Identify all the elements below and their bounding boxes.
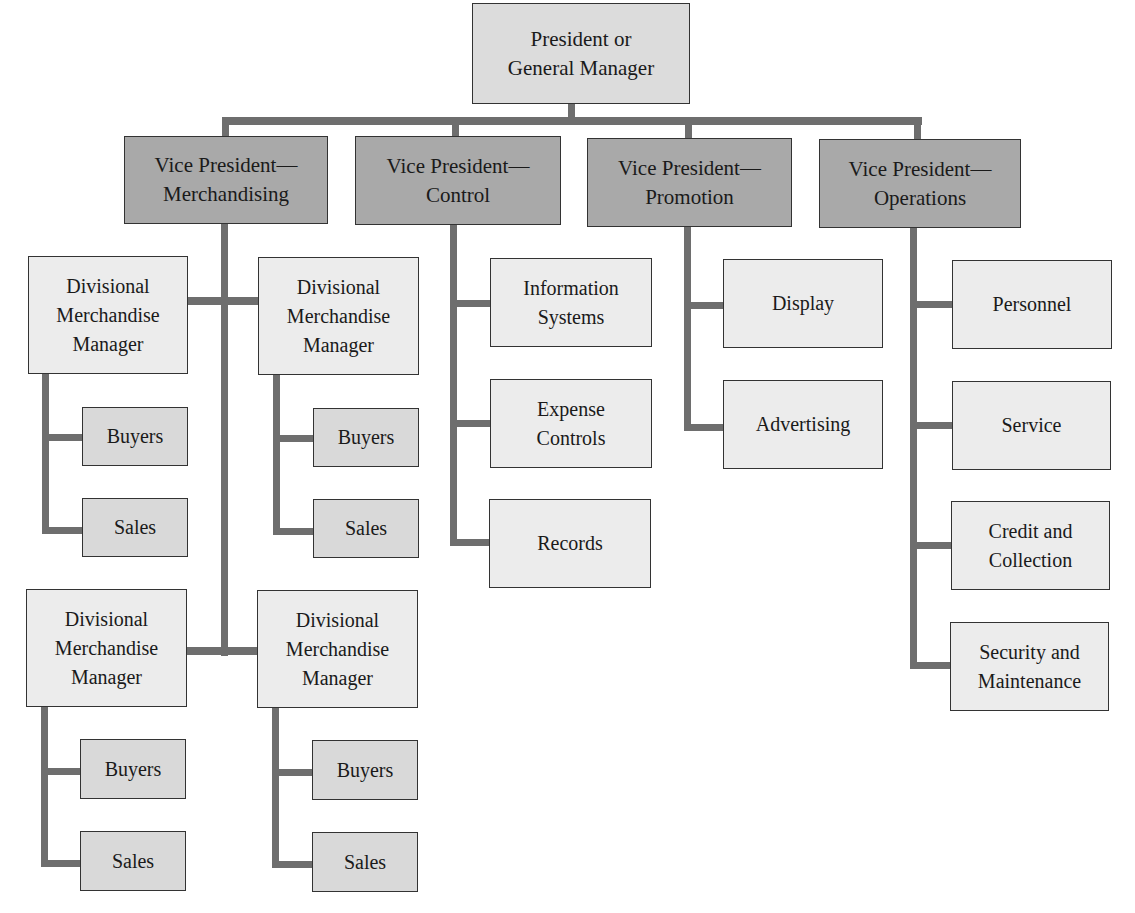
node-advertising: Advertising xyxy=(723,380,883,469)
node-label: Buyers xyxy=(338,423,395,452)
node-label: President or General Manager xyxy=(508,25,654,83)
node-label: Divisional Merchandise Manager xyxy=(286,606,389,693)
connector-dmm1-sales xyxy=(42,527,82,534)
node-records: Records xyxy=(489,499,651,588)
node-label: Records xyxy=(537,529,603,558)
node-label: Advertising xyxy=(756,410,850,439)
connector-dmm2-sales xyxy=(273,528,313,535)
node-security-and-maintenance: Security and Maintenance xyxy=(950,622,1109,711)
node-label: Information Systems xyxy=(523,274,619,332)
node-vp-promotion: Vice President— Promotion xyxy=(587,138,792,227)
connector-promotion-display xyxy=(684,302,724,309)
connector-operations-credit xyxy=(910,542,952,549)
connector-operations-personnel xyxy=(910,301,952,308)
node-dmm-4-sales: Sales xyxy=(312,832,418,892)
node-dmm-1-sales: Sales xyxy=(82,498,188,557)
connector-promotion-advertising xyxy=(684,424,724,431)
node-label: Vice President— Control xyxy=(387,152,530,210)
node-label: Sales xyxy=(112,847,154,876)
connector-vp-promotion-drop xyxy=(685,117,692,139)
node-label: Sales xyxy=(345,514,387,543)
node-label: Buyers xyxy=(105,755,162,784)
node-president: President or General Manager xyxy=(472,3,690,104)
node-label: Expense Controls xyxy=(537,395,606,453)
node-dmm-3: Divisional Merchandise Manager xyxy=(26,589,187,707)
node-dmm-2: Divisional Merchandise Manager xyxy=(258,257,419,375)
connector-operations-security xyxy=(910,662,952,669)
node-label: Sales xyxy=(344,848,386,877)
connector-vp-merch-drop xyxy=(222,117,229,137)
connector-merch-branch-bottom xyxy=(187,647,258,655)
connector-dmm4-sales xyxy=(272,861,312,868)
node-vp-merchandising: Vice President— Merchandising xyxy=(124,136,328,224)
node-label: Personnel xyxy=(993,290,1072,319)
node-information-systems: Information Systems xyxy=(490,258,652,347)
connector-dmm3-trunk xyxy=(41,707,48,867)
connector-dmm4-buyers xyxy=(272,769,312,776)
node-label: Vice President— Merchandising xyxy=(155,151,298,209)
node-label: Buyers xyxy=(107,422,164,451)
node-label: Divisional Merchandise Manager xyxy=(56,272,159,359)
node-label: Divisional Merchandise Manager xyxy=(55,605,158,692)
node-label: Display xyxy=(772,289,834,318)
node-dmm-3-sales: Sales xyxy=(80,831,186,891)
connector-merch-branch-top xyxy=(188,297,259,305)
connector-dmm3-sales xyxy=(41,860,81,867)
connector-control-infosys xyxy=(450,300,490,307)
node-personnel: Personnel xyxy=(952,260,1112,349)
node-dmm-4-buyers: Buyers xyxy=(312,740,418,800)
connector-dmm2-trunk xyxy=(273,375,280,535)
node-credit-and-collection: Credit and Collection xyxy=(951,501,1110,590)
connector-merch-trunk xyxy=(221,224,228,656)
node-dmm-4: Divisional Merchandise Manager xyxy=(257,590,418,708)
connector-dmm1-buyers xyxy=(42,434,82,441)
node-display: Display xyxy=(723,259,883,348)
connector-control-trunk xyxy=(450,225,457,546)
node-dmm-2-sales: Sales xyxy=(313,499,419,558)
connector-control-records xyxy=(450,539,490,546)
node-vp-operations: Vice President— Operations xyxy=(819,139,1021,228)
connector-dmm1-trunk xyxy=(42,374,49,534)
connector-dmm3-buyers xyxy=(41,768,81,775)
node-label: Buyers xyxy=(337,756,394,785)
connector-vp-operations-drop xyxy=(914,117,921,140)
node-label: Divisional Merchandise Manager xyxy=(287,273,390,360)
node-dmm-2-buyers: Buyers xyxy=(313,408,419,467)
node-label: Vice President— Promotion xyxy=(618,154,761,212)
connector-vp-bus xyxy=(222,117,922,125)
connector-operations-service xyxy=(910,422,952,429)
connector-control-expense xyxy=(450,420,490,427)
node-label: Security and Maintenance xyxy=(978,638,1081,696)
node-dmm-1-buyers: Buyers xyxy=(82,407,188,466)
node-dmm-3-buyers: Buyers xyxy=(80,739,186,799)
connector-dmm2-buyers xyxy=(273,435,313,442)
node-vp-control: Vice President— Control xyxy=(355,136,561,225)
node-dmm-1: Divisional Merchandise Manager xyxy=(28,256,188,374)
node-label: Service xyxy=(1002,411,1062,440)
connector-promotion-trunk xyxy=(684,227,691,431)
connector-dmm4-trunk xyxy=(272,708,279,868)
node-label: Credit and Collection xyxy=(989,517,1073,575)
connector-operations-trunk xyxy=(910,228,917,669)
node-label: Sales xyxy=(114,513,156,542)
node-expense-controls: Expense Controls xyxy=(490,379,652,468)
connector-vp-control-drop xyxy=(452,117,459,137)
node-service: Service xyxy=(952,381,1111,470)
node-label: Vice President— Operations xyxy=(849,155,992,213)
